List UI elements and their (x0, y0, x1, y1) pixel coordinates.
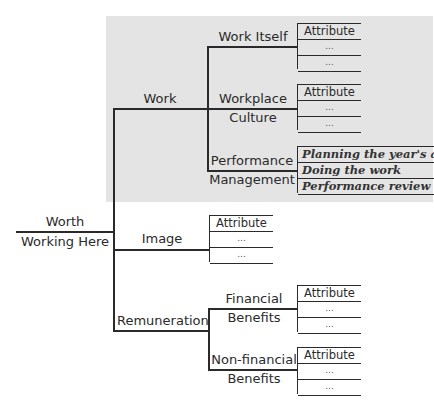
attribute-cell: ... (298, 317, 361, 334)
main-trunk (113, 108, 115, 332)
financial-benefits-attributes: Attribute ... ... (297, 285, 361, 332)
root-label-line1: Worth (16, 214, 114, 230)
attribute-cell: ... (298, 116, 361, 133)
remuneration-line (113, 330, 210, 332)
attribute-cell: Attribute (210, 215, 273, 231)
attribute-cell: ... (298, 379, 361, 396)
work-itself-line (207, 46, 298, 48)
attribute-cell: Attribute (298, 347, 361, 363)
workplace-culture-label-line2: Culture (210, 110, 296, 126)
work-line (113, 108, 209, 110)
attribute-cell: ... (210, 231, 273, 247)
attribute-cell: ... (210, 247, 273, 264)
performance-management-label-line1: Performance (208, 153, 296, 169)
image-label: Image (122, 231, 202, 247)
performance-management-label-line2: Management (208, 172, 296, 188)
work-itself-label: Work Itself (210, 29, 296, 45)
image-line (113, 249, 210, 251)
performance-management-attributes: Planning the year's acti Doing the work … (297, 146, 434, 193)
attribute-cell: ... (298, 39, 361, 55)
non-financial-benefits-label-line1: Non-financial (210, 352, 298, 368)
attribute-cell: ... (298, 100, 361, 116)
financial-benefits-label-line2: Benefits (212, 310, 296, 326)
attribute-cell: Doing the work (298, 162, 434, 178)
financial-benefits-label-line1: Financial (212, 291, 296, 307)
non-financial-benefits-attributes: Attribute ... ... (297, 347, 361, 394)
work-label: Work (120, 91, 200, 107)
non-financial-benefits-label-line2: Benefits (210, 371, 298, 387)
workplace-culture-label-line1: Workplace (210, 91, 296, 107)
attribute-cell: Performance review (298, 178, 434, 195)
image-attributes: Attribute ... ... (209, 215, 273, 262)
attribute-cell: Attribute (298, 84, 361, 100)
remuneration-label: Remuneration (117, 313, 207, 329)
attribute-cell: Planning the year's acti (298, 146, 434, 162)
attribute-cell: Attribute (298, 285, 361, 301)
root-line (16, 231, 115, 233)
work-itself-attributes: Attribute ... ... (297, 23, 361, 69)
attribute-cell: ... (298, 363, 361, 379)
attribute-cell: Attribute (298, 23, 361, 39)
attribute-cell: ... (298, 55, 361, 72)
workplace-culture-attributes: Attribute ... ... (297, 84, 361, 130)
attribute-cell: ... (298, 301, 361, 317)
root-label-line2: Working Here (16, 234, 114, 250)
